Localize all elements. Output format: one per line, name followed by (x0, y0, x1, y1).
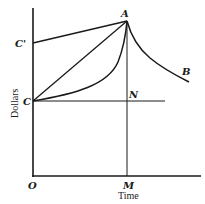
y-axis-title: Dollars (9, 88, 20, 118)
label-c: C (23, 96, 31, 107)
curve-a-to-b (127, 21, 189, 82)
label-a: A (120, 8, 129, 19)
x-axis-title: Time (118, 190, 139, 201)
line-c-prime-to-a (33, 21, 127, 43)
label-origin: O (28, 180, 37, 191)
label-n: N (128, 89, 139, 100)
label-c-prime: C' (15, 38, 26, 49)
line-c-to-a (33, 21, 127, 101)
diagram-canvas: A B C' C N M O Time Dollars (0, 0, 205, 204)
label-b: B (181, 66, 190, 77)
